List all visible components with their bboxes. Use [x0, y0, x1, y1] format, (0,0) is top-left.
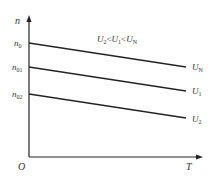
- y-axis-label: n: [15, 15, 20, 26]
- x-axis-arrow-icon: [196, 155, 203, 160]
- tick-n02: n02: [12, 89, 23, 100]
- condition-text: U2<U1<UN: [97, 34, 138, 45]
- tick-n01: n01: [12, 62, 23, 73]
- line-U2: [29, 94, 186, 118]
- origin-label: O: [18, 161, 25, 172]
- label-U1: U1: [192, 86, 202, 97]
- label-UN: UN: [192, 62, 204, 73]
- line-UN: [29, 43, 186, 67]
- y-axis-arrow-icon: [27, 15, 32, 22]
- line-U1: [29, 67, 186, 91]
- label-U2: U2: [192, 114, 202, 125]
- tick-n0: n0: [14, 38, 22, 49]
- n-t-characteristic-diagram: n T O n0 n01 n02 U2<U1<UN UN U1 U2: [0, 0, 216, 180]
- x-axis-label: T: [186, 161, 193, 172]
